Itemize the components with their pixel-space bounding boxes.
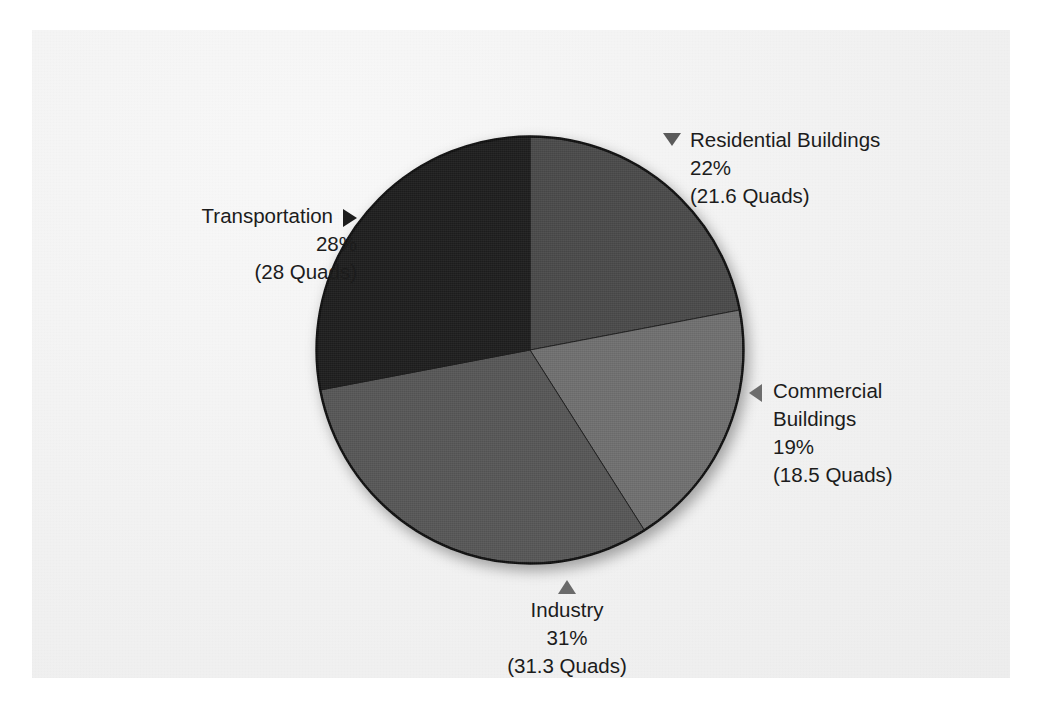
- callout-residential-buildings: Residential Buildings22%(21.6 Quads): [663, 126, 880, 210]
- scanned-page-panel: Residential Buildings22%(21.6 Quads) Com…: [32, 30, 1010, 678]
- callout-transportation: Transportation 28% (28 Quads): [172, 202, 357, 286]
- callout-industry-name: Industry: [452, 596, 682, 624]
- callout-industry-percent: 31%: [452, 624, 682, 652]
- triangle-down-icon: [663, 133, 681, 146]
- callout-residential-name: Residential Buildings: [690, 126, 880, 154]
- callout-commercial-name-line2: Buildings: [773, 405, 893, 433]
- callout-commercial-percent: 19%: [773, 433, 893, 461]
- callout-transportation-name-row: Transportation: [172, 202, 357, 230]
- callout-commercial-quads: (18.5 Quads): [773, 461, 893, 489]
- callout-industry: Industry 31% (31.3 Quads): [452, 580, 682, 680]
- callout-residential-percent: 22%: [690, 154, 880, 182]
- callout-transportation-percent: 28%: [172, 230, 357, 258]
- triangle-left-icon: [749, 384, 762, 402]
- callout-transportation-quads: (28 Quads): [172, 258, 357, 286]
- triangle-up-icon: [558, 580, 576, 594]
- callout-commercial-text: CommercialBuildings19%(18.5 Quads): [773, 377, 893, 489]
- callout-residential-text: Residential Buildings22%(21.6 Quads): [690, 126, 880, 210]
- pie-chart-figure: Residential Buildings22%(21.6 Quads) Com…: [32, 30, 1010, 678]
- callout-transportation-name: Transportation: [202, 204, 333, 227]
- triangle-right-icon: [343, 209, 357, 227]
- callout-commercial-name-line1: Commercial: [773, 377, 893, 405]
- callout-industry-quads: (31.3 Quads): [452, 652, 682, 680]
- callout-commercial-buildings: CommercialBuildings19%(18.5 Quads): [749, 377, 893, 489]
- callout-residential-quads: (21.6 Quads): [690, 182, 880, 210]
